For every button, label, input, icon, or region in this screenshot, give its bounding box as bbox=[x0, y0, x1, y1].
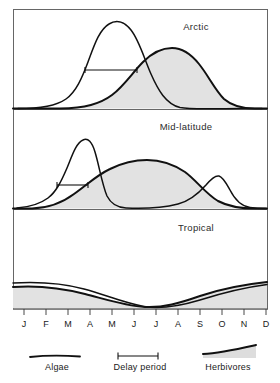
legend-item-herbivores: Herbivores bbox=[203, 345, 256, 372]
legend-label-herbivores: Herbivores bbox=[205, 362, 251, 372]
panel-tropical: Tropical bbox=[13, 222, 267, 309]
month-label-sep: S bbox=[197, 319, 203, 329]
tropical-herbivore-area bbox=[13, 282, 267, 309]
arctic-herbivore-area bbox=[13, 48, 267, 109]
legend-label-delay-period: Delay period bbox=[114, 362, 167, 372]
month-label-feb: F bbox=[43, 319, 49, 329]
x-axis-ticks bbox=[24, 309, 266, 315]
panel-label-tropical: Tropical bbox=[178, 222, 214, 233]
legend-item-algae: Algae bbox=[30, 356, 80, 372]
algae-line-icon bbox=[30, 356, 80, 357]
month-label-dec: D bbox=[263, 319, 270, 329]
panel-label-mid-latitude: Mid-latitude bbox=[160, 121, 213, 132]
x-axis-month-labels: J F M A M J J A S O N D bbox=[22, 319, 270, 329]
month-label-mar: M bbox=[64, 319, 72, 329]
panel-label-arctic: Arctic bbox=[183, 21, 209, 32]
month-label-jun: J bbox=[132, 319, 137, 329]
month-label-jan: J bbox=[22, 319, 27, 329]
month-label-jul: J bbox=[154, 319, 159, 329]
midlat-herbivore-area bbox=[13, 160, 267, 209]
panel-mid-latitude: Mid-latitude bbox=[13, 121, 267, 209]
x-axis: J F M A M J J A S O N D bbox=[13, 309, 270, 329]
month-label-aug: A bbox=[175, 319, 181, 329]
seasonal-plankton-figure: Arctic Mid-latitude Tropical bbox=[0, 0, 280, 383]
legend-item-delay-period: Delay period bbox=[114, 353, 167, 373]
month-label-apr: A bbox=[87, 319, 93, 329]
panel-arctic: Arctic bbox=[13, 21, 267, 109]
month-label-oct: O bbox=[218, 319, 225, 329]
legend-label-algae: Algae bbox=[45, 362, 69, 372]
month-label-nov: N bbox=[241, 319, 248, 329]
legend: Algae Delay period Herbivores bbox=[30, 345, 256, 372]
plot-frame bbox=[14, 10, 268, 310]
month-label-may: M bbox=[108, 319, 116, 329]
